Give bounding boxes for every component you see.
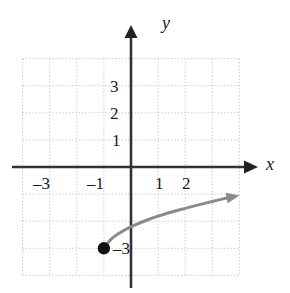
x-axis-label: x: [266, 155, 274, 173]
x-tick-label-1: 1: [155, 175, 164, 192]
y-tick-label-neg3: –3: [113, 240, 130, 257]
coordinate-plane-svg: [0, 0, 290, 293]
y-axis-label: y: [162, 14, 170, 32]
graph-figure: y x 3 2 1 –3 –1 1 2 –3: [0, 0, 290, 293]
x-axis-arrowhead: [244, 161, 258, 174]
y-axis-arrowhead: [125, 25, 138, 38]
y-tick-label-3: 3: [110, 78, 119, 95]
curve-start-point-dot: [98, 242, 110, 254]
x-tick-label-neg1: –1: [87, 175, 104, 192]
x-tick-label-2: 2: [182, 175, 191, 192]
y-tick-label-1: 1: [112, 132, 121, 149]
x-tick-label-neg3: –3: [33, 175, 50, 192]
y-tick-label-2: 2: [110, 105, 119, 122]
